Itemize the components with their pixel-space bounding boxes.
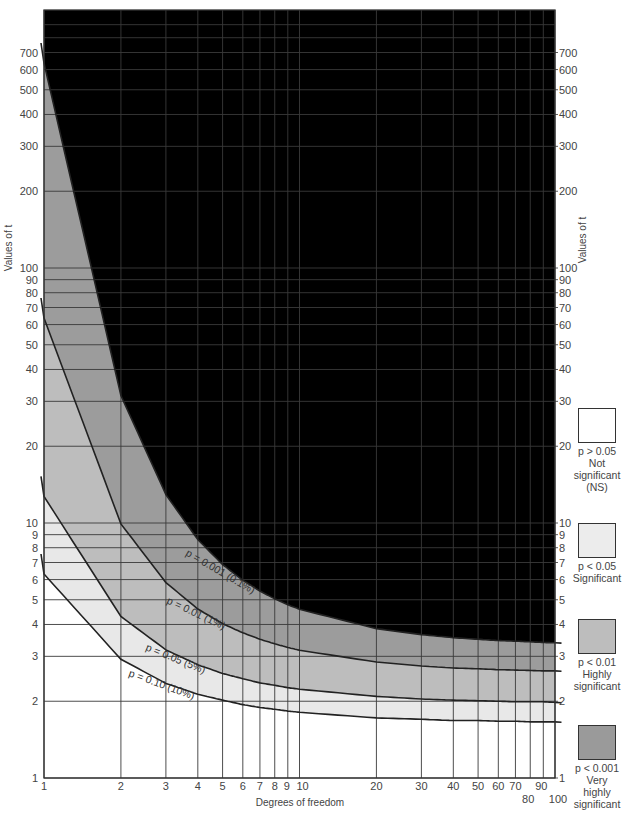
x-tick-label: 2 xyxy=(118,780,124,792)
x-tick-label: 4 xyxy=(195,780,201,792)
y-tick-label-left: 3 xyxy=(32,650,38,662)
legend-label: (NS) xyxy=(567,481,627,493)
y-tick-label-right: 30 xyxy=(559,395,571,407)
y-tick-label-left: 7 xyxy=(32,557,38,569)
x-axis-label: Degrees of freedom xyxy=(256,797,344,808)
y-tick-label-left: 700 xyxy=(20,47,38,59)
y-tick-label-left: 90 xyxy=(26,274,38,286)
legend-swatch xyxy=(578,408,616,443)
y-tick-label-left: 200 xyxy=(20,185,38,197)
legend-swatch xyxy=(578,523,616,558)
t-distribution-chart: p = 0.10 (10%)p = 0.05 (5%)p = 0.01 (1%)… xyxy=(0,0,633,817)
legend-label: Highly xyxy=(567,668,627,680)
x-tick-label: 5 xyxy=(220,780,226,792)
y-tick-label-right: 5 xyxy=(559,594,565,606)
legend-condition: p < 0.01 xyxy=(567,656,627,668)
y-tick-label-left: 9 xyxy=(32,529,38,541)
x-tick-label: 60 xyxy=(492,780,504,792)
y-tick-label-left: 30 xyxy=(26,395,38,407)
x-tick-label: 80 xyxy=(522,793,534,805)
y-tick-label-right: 7 xyxy=(559,557,565,569)
y-tick-label-right: 500 xyxy=(559,84,577,96)
x-tick-label: 8 xyxy=(272,780,278,792)
legend-item: p < 0.001Veryhighlysignificant xyxy=(567,725,627,810)
x-tick-label: 50 xyxy=(472,780,484,792)
legend-condition: p < 0.001 xyxy=(567,762,627,774)
legend-label: highly xyxy=(567,786,627,798)
legend-condition: p > 0.05 xyxy=(567,445,627,457)
legend-condition: p < 0.05 xyxy=(567,560,627,572)
y-tick-label-left: 100 xyxy=(20,262,38,274)
legend-label: significant xyxy=(567,798,627,810)
y-tick-label-right: 40 xyxy=(559,363,571,375)
y-axis-label-right: Values of t xyxy=(577,217,588,264)
y-tick-label-left: 80 xyxy=(26,287,38,299)
y-tick-label-left: 2 xyxy=(32,695,38,707)
x-tick-label: 3 xyxy=(163,780,169,792)
y-tick-label-right: 2 xyxy=(559,695,565,707)
legend-item: p < 0.05Significant xyxy=(567,523,627,584)
y-tick-label-left: 4 xyxy=(32,618,38,630)
x-tick-label: 70 xyxy=(509,780,521,792)
legend-swatch xyxy=(578,619,616,654)
legend-label: significant xyxy=(567,469,627,481)
y-tick-label-right: 300 xyxy=(559,140,577,152)
y-tick-label-right: 80 xyxy=(559,287,571,299)
x-tick-label: 9 xyxy=(284,780,290,792)
legend-swatch xyxy=(578,725,616,760)
x-tick-label: 7 xyxy=(257,780,263,792)
y-tick-label-left: 70 xyxy=(26,302,38,314)
x-tick-label: 1 xyxy=(41,780,47,792)
y-tick-label-left: 20 xyxy=(26,440,38,452)
y-tick-label-left: 300 xyxy=(20,140,38,152)
legend-item: p > 0.05Notsignificant(NS) xyxy=(567,408,627,493)
y-tick-label-left: 10 xyxy=(26,517,38,529)
y-tick-label-right: 200 xyxy=(559,185,577,197)
y-tick-label-left: 60 xyxy=(26,319,38,331)
y-tick-label-right: 400 xyxy=(559,108,577,120)
y-tick-label-right: 600 xyxy=(559,64,577,76)
legend-label: Significant xyxy=(567,572,627,584)
x-tick-label: 6 xyxy=(240,780,246,792)
y-tick-label-left: 50 xyxy=(26,339,38,351)
y-tick-label-right: 8 xyxy=(559,542,565,554)
x-tick-label: 90 xyxy=(535,780,547,792)
legend-label: Not xyxy=(567,457,627,469)
legend-label: Very xyxy=(567,774,627,786)
y-tick-label-right: 6 xyxy=(559,574,565,586)
y-tick-label-right: 70 xyxy=(559,302,571,314)
y-tick-label-left: 5 xyxy=(32,594,38,606)
y-axis-label-left: Values of t xyxy=(3,225,14,272)
y-tick-label-right: 100 xyxy=(559,262,577,274)
y-tick-label-right: 4 xyxy=(559,618,565,630)
y-tick-label-right: 60 xyxy=(559,319,571,331)
y-tick-label-left: 400 xyxy=(20,108,38,120)
y-tick-label-left: 500 xyxy=(20,84,38,96)
x-tick-label: 100 xyxy=(549,793,567,805)
y-tick-label-right: 700 xyxy=(559,47,577,59)
y-tick-label-right: 1 xyxy=(559,772,565,784)
y-tick-label-right: 50 xyxy=(559,339,571,351)
legend-item: p < 0.01Highlysignificant xyxy=(567,619,627,692)
y-tick-label-left: 8 xyxy=(32,542,38,554)
x-tick-label: 30 xyxy=(415,780,427,792)
x-tick-label: 20 xyxy=(370,780,382,792)
y-tick-label-right: 90 xyxy=(559,274,571,286)
y-tick-label-right: 3 xyxy=(559,650,565,662)
x-tick-label: 40 xyxy=(447,780,459,792)
y-tick-label-left: 40 xyxy=(26,363,38,375)
y-tick-label-left: 600 xyxy=(20,64,38,76)
y-tick-label-right: 9 xyxy=(559,529,565,541)
y-tick-label-left: 1 xyxy=(32,772,38,784)
y-axis-ticks-left: 1234567891020304050607080901002003004005… xyxy=(20,47,38,785)
x-tick-label: 10 xyxy=(296,780,308,792)
legend-label: significant xyxy=(567,680,627,692)
significance-regions xyxy=(31,0,600,778)
y-tick-label-left: 6 xyxy=(32,574,38,586)
